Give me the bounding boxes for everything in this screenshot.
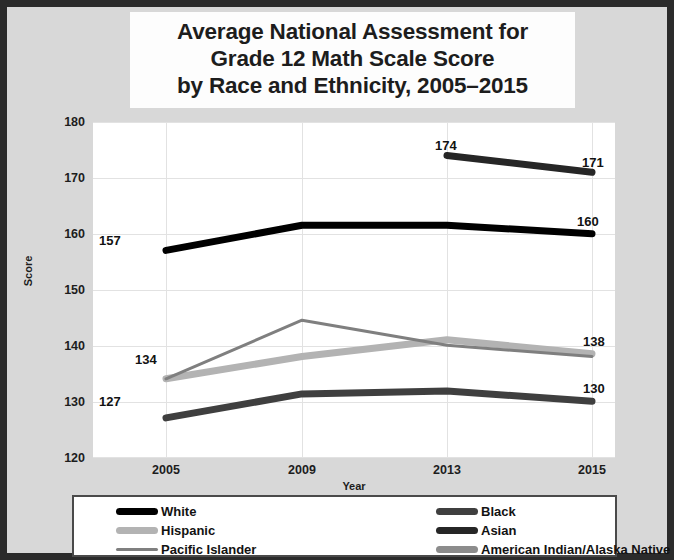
series-lines xyxy=(93,122,615,458)
data-label-157: 157 xyxy=(99,233,121,248)
legend-label-pacific-islander: Pacific Islander xyxy=(161,543,256,557)
legend-label-hispanic: Hispanic xyxy=(161,524,215,538)
chart-title-line-1: Average National Assessment for xyxy=(138,18,567,45)
y-axis-tick-labels: 180 170 160 150 140 130 120 xyxy=(39,122,85,458)
x-axis-label: Year xyxy=(93,480,615,492)
chart-legend: WhiteBlackHispanicAsianPacific IslanderA… xyxy=(72,495,617,557)
y-tick-180: 180 xyxy=(43,116,85,128)
legend-label-black: Black xyxy=(481,505,516,519)
y-axis-label: Score xyxy=(22,231,34,311)
legend-item-american-indian-alaska-native[interactable]: American Indian/Alaska Native xyxy=(436,541,670,558)
legend-label-american-indian-alaska-native: American Indian/Alaska Native xyxy=(481,543,670,557)
legend-swatch-american-indian-alaska-native xyxy=(436,546,478,553)
x-tick-2015: 2015 xyxy=(552,463,632,477)
legend-swatch-asian xyxy=(436,527,478,534)
legend-swatch-black xyxy=(436,508,478,515)
legend-swatch-hispanic xyxy=(116,527,158,534)
y-tick-120: 120 xyxy=(43,452,85,464)
legend-label-asian: Asian xyxy=(481,524,516,538)
legend-label-white: White xyxy=(161,505,196,519)
legend-item-asian[interactable]: Asian xyxy=(436,522,516,539)
chart-title: Average National Assessment for Grade 12… xyxy=(130,12,575,108)
series-line-hispanic xyxy=(166,340,592,379)
data-label-174: 174 xyxy=(435,138,457,153)
chart-title-line-2: Grade 12 Math Scale Score xyxy=(138,45,567,72)
plot-area xyxy=(93,122,615,458)
y-tick-140: 140 xyxy=(43,340,85,352)
data-label-171: 171 xyxy=(582,155,604,170)
legend-swatch-white xyxy=(116,508,158,515)
data-label-134: 134 xyxy=(135,352,157,367)
data-label-138: 138 xyxy=(583,334,605,349)
chart-title-line-3: by Race and Ethnicity, 2005–2015 xyxy=(138,72,567,99)
series-line-black xyxy=(166,391,592,418)
y-tick-160: 160 xyxy=(43,228,85,240)
chart-figure: Average National Assessment for Grade 12… xyxy=(0,0,674,560)
legend-item-white[interactable]: White xyxy=(116,503,196,520)
y-tick-170: 170 xyxy=(43,172,85,184)
legend-item-black[interactable]: Black xyxy=(436,503,516,520)
x-tick-2013: 2013 xyxy=(407,463,487,477)
legend-item-hispanic[interactable]: Hispanic xyxy=(116,522,215,539)
legend-item-pacific-islander[interactable]: Pacific Islander xyxy=(116,541,256,558)
y-tick-130: 130 xyxy=(43,396,85,408)
x-tick-2009: 2009 xyxy=(262,463,342,477)
data-label-160: 160 xyxy=(577,214,599,229)
data-label-127: 127 xyxy=(99,394,121,409)
series-line-asian xyxy=(447,156,592,173)
legend-swatch-pacific-islander xyxy=(116,548,158,551)
y-tick-150: 150 xyxy=(43,284,85,296)
x-tick-2005: 2005 xyxy=(126,463,206,477)
data-label-130: 130 xyxy=(583,381,605,396)
series-line-white xyxy=(166,225,592,250)
